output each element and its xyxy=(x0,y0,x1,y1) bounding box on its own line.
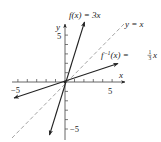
y-tick-label-5: 5 xyxy=(57,31,61,41)
origin-point xyxy=(64,81,67,84)
x-axis-label: x xyxy=(118,70,123,80)
x-tick-label-5: 5 xyxy=(108,86,112,96)
svg-text:x: x xyxy=(152,50,157,60)
f-line xyxy=(50,22,85,135)
f-inverse-label: f−1(x) = 1 3 x xyxy=(101,49,157,61)
identity-label: y = x xyxy=(124,19,144,29)
f-label: f(x) = 3x xyxy=(69,10,101,20)
svg-text:f−1(x) =: f−1(x) = xyxy=(101,50,129,60)
identity-line xyxy=(12,24,124,138)
x-tick-label-neg5: −5 xyxy=(11,85,20,95)
y-tick-label-neg5: −5 xyxy=(70,124,79,134)
frac-den: 3 xyxy=(149,55,152,61)
function-inverse-graph: x y −5 5 5 −5 f(x) = 3x y = x f−1(x) = 1… xyxy=(0,0,161,142)
